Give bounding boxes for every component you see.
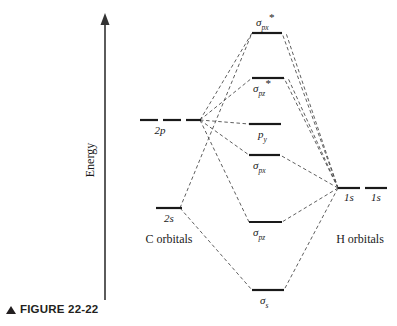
group-label-c-orbitals: C orbitals [146,232,193,246]
figure-caption: FIGURE 22-22 [6,303,98,315]
energy-axis-label: Energy [83,143,97,177]
mo-level-labels: σpx* σpz* py σpx σpz σs [253,11,275,310]
group-label-h-orbitals: H orbitals [336,232,384,246]
level-label-sigma-s: σs [260,294,268,310]
subscript2-1: z [261,89,265,98]
line-2s-to-sigma-s [180,208,252,290]
star-glyph-1: * [265,77,271,89]
level-label-h-1s-b: 1s [371,191,381,203]
c-orbital-levels: 2p 2s [140,120,201,224]
correlation-lines [180,33,338,290]
h-orbital-levels: 1s 1s [338,188,387,203]
subscript2-4: z [261,233,265,242]
mo-diagram-svg: Energy [0,0,397,326]
subscript2-0: x [264,23,269,32]
level-label-c-2p: 2p [155,124,167,136]
line-1s-b-to-sigma-star-px [286,33,338,188]
line-1s-to-sigma-star-px [282,33,338,188]
line-1s-to-sigma-star-pz [284,78,338,188]
subscript-5: s [265,301,268,310]
level-label-sigma-star-px: σpx* [256,11,275,32]
mo-diagram-figure: Energy [0,0,397,326]
subscript2-3: x [261,166,266,175]
star-glyph-0: * [269,11,275,23]
line-1s-to-sigma-s [284,188,338,290]
line-1s-to-sigma-px [280,155,338,188]
line-2p-to-sigma-star-pz [200,78,252,120]
line-2p-to-sigma-pz [200,120,249,222]
level-label-py: py [257,128,268,144]
line-2p-to-sigma-px [200,120,249,155]
energy-axis: Energy [83,13,110,300]
level-label-c-2s: 2s [164,212,174,224]
figure-caption-text: FIGURE 22-22 [20,303,98,315]
level-label-sigma-star-pz: σpz* [253,77,271,98]
energy-axis-arrowhead [101,13,110,25]
line-2p-to-sigma-star-px [200,33,252,120]
level-label-sigma-pz: σpz [253,226,265,242]
level-label-sigma-px: σpx [253,159,266,175]
line-1s-to-sigma-pz [282,188,338,222]
level-label-h-1s-a: 1s [344,191,354,203]
triangle-icon [6,306,16,314]
line-2p-to-py [200,120,249,124]
subscript-2: y [263,135,268,144]
line-1s-b-to-sigma-star-pz [288,78,338,188]
